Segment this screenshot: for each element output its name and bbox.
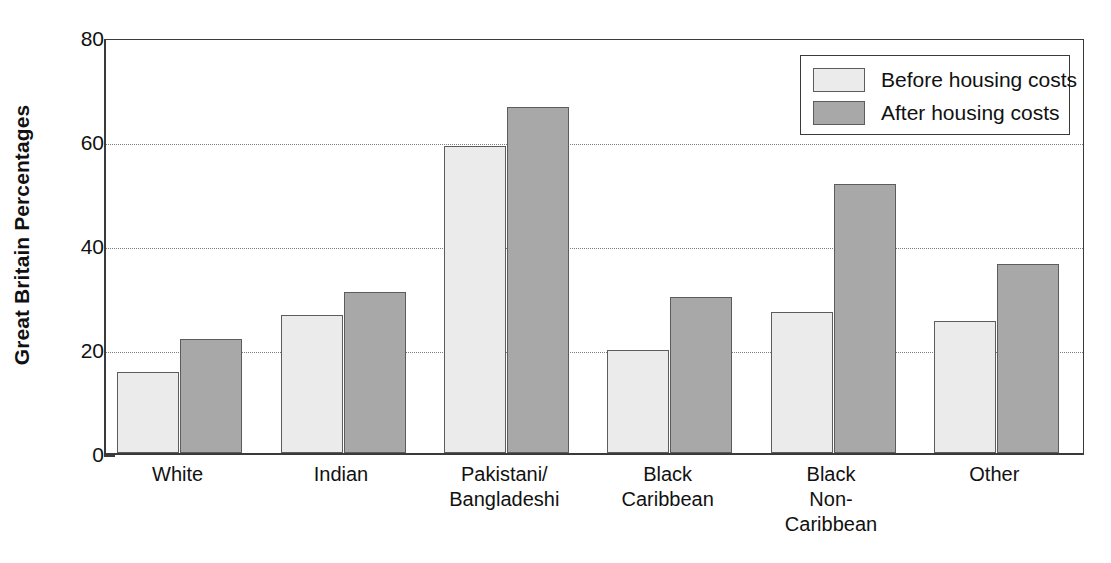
y-tick-label-80: 80 <box>58 27 104 51</box>
bar-before-1 <box>281 315 343 453</box>
bar-before-5 <box>934 321 996 453</box>
x-label-2: Pakistani/ Bangladeshi <box>414 462 594 512</box>
x-axis-category-labels: WhiteIndianPakistani/ BangladeshiBlack C… <box>104 462 1084 563</box>
bar-before-0 <box>117 372 179 453</box>
y-axis-tick-labels: 020406080 <box>0 39 104 455</box>
bar-after-5 <box>997 264 1059 453</box>
bar-before-4 <box>771 312 833 453</box>
chart-legend: Before housing costsAfter housing costs <box>800 55 1070 135</box>
x-label-4: Black Non- Caribbean <box>741 462 921 537</box>
legend-swatch-before <box>813 68 865 92</box>
bar-before-3 <box>607 350 669 453</box>
bar-chart: Great Britain Percentages 020406080 Whit… <box>0 0 1111 563</box>
legend-swatch-after <box>813 101 865 125</box>
bar-after-0 <box>180 339 242 453</box>
gridline-60 <box>106 144 1083 145</box>
bar-after-3 <box>670 297 732 453</box>
y-tick-label-60: 60 <box>58 131 104 155</box>
x-label-3: Black Caribbean <box>578 462 758 512</box>
bar-after-2 <box>507 107 569 453</box>
bar-after-1 <box>344 292 406 453</box>
legend-item-0: Before housing costs <box>813 64 1069 96</box>
legend-label-1: After housing costs <box>881 101 1060 125</box>
legend-item-1: After housing costs <box>813 97 1069 129</box>
y-tick-mark-0 <box>104 455 115 457</box>
x-label-1: Indian <box>251 462 431 487</box>
gridline-40 <box>106 248 1083 249</box>
y-tick-label-20: 20 <box>58 339 104 363</box>
y-tick-label-40: 40 <box>58 235 104 259</box>
x-label-0: White <box>88 462 268 487</box>
bar-after-4 <box>834 184 896 453</box>
bar-before-2 <box>444 146 506 453</box>
x-label-5: Other <box>904 462 1084 487</box>
legend-label-0: Before housing costs <box>881 68 1077 92</box>
